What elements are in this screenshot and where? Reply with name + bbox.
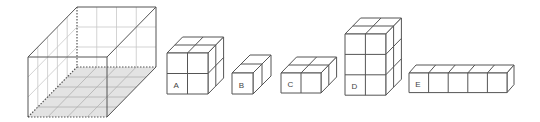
block-top-face	[409, 65, 514, 73]
block-e: E	[409, 65, 514, 93]
block-label: A	[174, 81, 180, 90]
block-label: E	[415, 80, 420, 89]
block-d: D	[345, 18, 401, 95]
block-label: B	[239, 81, 244, 90]
block-label: D	[352, 82, 358, 91]
block-front-face	[409, 73, 507, 93]
side-wall-grid-line	[28, 27, 77, 77]
block-c: C	[281, 57, 337, 93]
block-label: C	[287, 80, 293, 89]
box-edge	[107, 7, 156, 57]
box-edge	[28, 7, 77, 57]
diagram-canvas: ABCDE	[0, 0, 540, 122]
cube-diagram: ABCDE	[0, 0, 540, 122]
cube-blocks: ABCDE	[167, 18, 514, 95]
open-box-container	[28, 7, 156, 117]
block-b: B	[232, 55, 271, 94]
block-a: A	[167, 37, 224, 94]
